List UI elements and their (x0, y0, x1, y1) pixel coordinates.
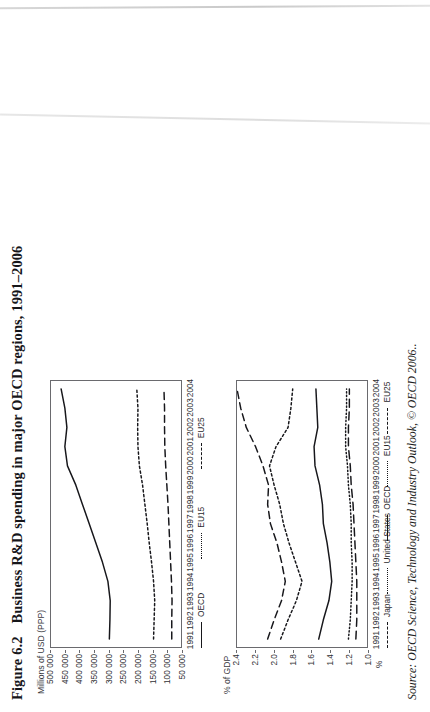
legend-line-swatch (201, 443, 202, 469)
series-line-united-states (270, 389, 303, 639)
y-tick-mark (368, 650, 369, 653)
x-tick-label: 2002 (185, 418, 195, 436)
legend-line-swatch (387, 568, 388, 594)
chart-business-rd-spending-absolute: Millions of USD (PPP) 50 000100 000150 0… (36, 364, 208, 694)
y-tick-label: 1.2 (344, 654, 354, 666)
figure-source-note: Source: OECD Science, Technology and Ind… (405, 344, 420, 700)
legend-label: EU25 (382, 382, 392, 403)
y-tick-mark (236, 650, 237, 653)
x-tick-label: 1998 (371, 495, 381, 513)
x-tick-label: 1996 (185, 534, 195, 552)
series-line-eu15 (137, 389, 155, 639)
chart-top-y-axis: 50 000100 000150 000200 000250 000300 00… (50, 650, 182, 694)
y-tick-label: 2.2 (250, 654, 260, 666)
x-tick-label: 1997 (371, 514, 381, 532)
x-tick-label: 2004 (371, 379, 381, 397)
y-tick-mark (330, 650, 331, 653)
legend-label: EU25 (196, 417, 206, 438)
y-tick-label: 300 000 (104, 654, 114, 684)
x-tick-label: 1997 (185, 514, 195, 532)
x-tick-label: 1995 (371, 553, 381, 571)
x-tick-label: 2002 (371, 418, 381, 436)
x-tick-label: 1999 (371, 476, 381, 494)
y-tick-label: 500 000 (45, 654, 55, 684)
x-tick-label: 1994 (185, 573, 195, 591)
x-tick-label: 2003 (185, 398, 195, 416)
y-tick-mark (274, 650, 275, 653)
chart-bottom-y-axis: 1.01.21.41.61.82.02.22.4 (236, 650, 368, 694)
figure-number: Figure 6.2 (9, 636, 25, 700)
chart-business-rd-intensity-gdp: % of GDP 1.01.21.41.61.82.02.22.4 199119… (222, 364, 394, 694)
legend-line-swatch (387, 461, 388, 487)
series-line-eu25 (164, 389, 172, 639)
series-line-eu25 (348, 389, 356, 639)
legend-label: EU15 (196, 507, 206, 528)
y-tick-label: 150 000 (148, 654, 158, 684)
y-tick-label: 350 000 (89, 654, 99, 684)
y-tick-mark (153, 650, 154, 653)
x-tick-label: 1993 (371, 592, 381, 610)
legend-line-swatch (387, 408, 388, 434)
x-tick-label: 2003 (371, 398, 381, 416)
legend-line-swatch (201, 533, 202, 559)
x-tick-label: 1996 (371, 534, 381, 552)
y-tick-label: 100 000 (162, 654, 172, 684)
legend-label: OECD (196, 593, 206, 617)
x-tick-label: 2000 (371, 456, 381, 474)
x-tick-label: 2000 (185, 456, 195, 474)
figure-title: Business R&D spending in major OECD regi… (9, 246, 25, 624)
y-tick-label: 2.0 (269, 654, 279, 666)
legend-line-swatch (387, 622, 388, 648)
y-tick-label: 2.4 (231, 654, 241, 666)
x-tick-label: 2004 (185, 379, 195, 397)
x-tick-label: 1998 (185, 495, 195, 513)
chart-top-plot-area (50, 380, 182, 648)
chart-top-legend: OECDEU15EU25 (196, 380, 210, 648)
x-tick-label: 1999 (185, 476, 195, 494)
figure-caption: Figure 6.2Business R&D spending in major… (9, 246, 26, 700)
y-tick-label: 450 000 (60, 654, 70, 684)
x-tick-label: 1992 (185, 611, 195, 629)
series-line-oecd (314, 389, 332, 639)
y-tick-mark (123, 650, 124, 653)
y-tick-mark (255, 650, 256, 653)
x-tick-label: 1995 (185, 553, 195, 571)
legend-label: EU15 (382, 435, 392, 456)
x-tick-label: 2001 (185, 437, 195, 455)
x-tick-label: 1991 (185, 631, 195, 649)
y-tick-mark (138, 650, 139, 653)
x-tick-label: 2001 (371, 437, 381, 455)
rotated-page-content: Figure 6.2Business R&D spending in major… (0, 0, 430, 712)
legend-line-swatch (387, 515, 388, 541)
x-tick-label: 1994 (371, 573, 381, 591)
legend-line-swatch (201, 622, 202, 648)
legend-label: Japan (382, 594, 392, 617)
y-tick-mark (50, 650, 51, 653)
chart-top-lines (51, 381, 181, 647)
y-tick-label: 1.8 (288, 654, 298, 666)
chart-bottom-lines (237, 381, 367, 647)
y-tick-mark (109, 650, 110, 653)
y-tick-mark (94, 650, 95, 653)
y-tick-label: 1.0 (363, 654, 373, 666)
series-line-japan (237, 389, 285, 639)
y-tick-mark (79, 650, 80, 653)
x-tick-label: 1991 (371, 631, 381, 649)
y-tick-label: 1.4 (325, 654, 335, 666)
y-tick-mark (349, 650, 350, 653)
series-line-oecd (61, 389, 110, 639)
y-tick-label: 50 000 (177, 654, 187, 679)
chart-bottom-legend: JapanUnited StatesOECDEU15EU25 (382, 380, 396, 648)
y-tick-mark (65, 650, 66, 653)
y-tick-mark (311, 650, 312, 653)
chart-bottom-plot-area (236, 380, 368, 648)
y-tick-mark (182, 650, 183, 653)
y-tick-label: 400 000 (74, 654, 84, 684)
y-tick-mark (293, 650, 294, 653)
y-tick-label: 200 000 (133, 654, 143, 684)
legend-label: OECD (382, 486, 392, 510)
x-tick-label: 1992 (371, 611, 381, 629)
y-axis-unit-label: % (374, 661, 384, 668)
y-tick-mark (167, 650, 168, 653)
y-tick-label: 250 000 (118, 654, 128, 684)
